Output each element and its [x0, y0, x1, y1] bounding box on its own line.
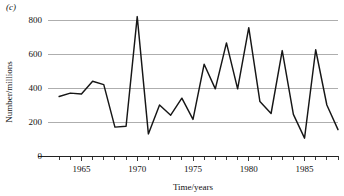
- y-tick-label-800: 800: [29, 15, 43, 25]
- data-series-group: [59, 17, 338, 139]
- y-tick-label-600: 600: [29, 49, 43, 59]
- x-tick-label-1980: 1980: [240, 164, 259, 174]
- figure-panel: (c) 0200400600800 19651970197519801985 N…: [0, 0, 344, 196]
- series-line-1: [59, 17, 338, 139]
- y-tick-label-group: 0200400600800: [29, 15, 43, 161]
- x-tick-label-1970: 1970: [128, 164, 147, 174]
- y-tick-label-400: 400: [29, 83, 43, 93]
- x-tick-label-1965: 1965: [72, 164, 91, 174]
- x-axis-title: Time/years: [173, 182, 214, 192]
- x-axis-group: [38, 156, 338, 161]
- line-chart: 0200400600800 19651970197519801985 Numbe…: [0, 0, 344, 196]
- y-tick-label-0: 0: [38, 151, 43, 161]
- x-tick-label-group: 19651970197519801985: [72, 164, 314, 174]
- y-axis-title: Number/millions: [4, 61, 14, 123]
- x-tick-label-1985: 1985: [296, 164, 315, 174]
- x-tick-label-1975: 1975: [184, 164, 203, 174]
- y-tick-label-200: 200: [29, 117, 43, 127]
- gridlines-group: [48, 20, 338, 122]
